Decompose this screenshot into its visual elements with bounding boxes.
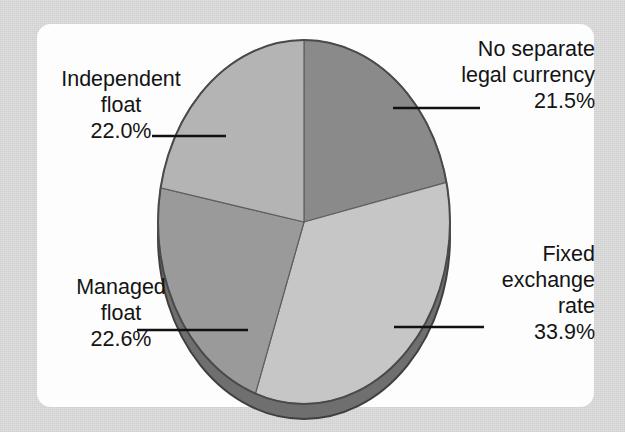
label-line-2: float bbox=[30, 300, 212, 326]
label-value: 21.5% bbox=[461, 88, 595, 114]
label-line-1: No separate bbox=[461, 36, 595, 62]
label-line-3: rate bbox=[502, 293, 595, 319]
label-no-separate-legal-currency: No separate legal currency 21.5% bbox=[461, 36, 595, 114]
label-line-1: Independent bbox=[30, 66, 212, 92]
label-value: 22.6% bbox=[30, 326, 212, 352]
label-independent-float: Independent float 22.0% bbox=[30, 66, 212, 144]
label-line-2: exchange bbox=[502, 267, 595, 293]
screenshot-root: No separate legal currency 21.5% Indepen… bbox=[0, 0, 625, 432]
label-fixed-exchange-rate: Fixed exchange rate 33.9% bbox=[502, 241, 595, 345]
label-line-2: float bbox=[30, 92, 212, 118]
label-managed-float: Managed float 22.6% bbox=[30, 274, 212, 352]
label-line-2: legal currency bbox=[461, 62, 595, 88]
label-value: 22.0% bbox=[30, 118, 212, 144]
label-value: 33.9% bbox=[502, 319, 595, 345]
label-line-1: Fixed bbox=[502, 241, 595, 267]
label-line-1: Managed bbox=[30, 274, 212, 300]
